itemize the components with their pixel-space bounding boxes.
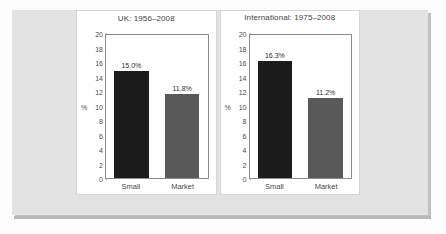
y-tick-label-4-uk: 4 — [99, 147, 103, 154]
panel-shadow — [14, 216, 431, 219]
y-tick-label-8-uk: 8 — [99, 118, 103, 125]
y-tick-label-20-international: 20 — [239, 31, 247, 38]
x-label-small-uk: Small — [113, 182, 148, 196]
y-tick-label-14-international: 14 — [239, 74, 247, 81]
x-label-market-uk: Market — [165, 182, 200, 196]
bar-small-international[interactable]: 16.3% — [258, 61, 293, 178]
charts-row: UK: 1956–2008 % 20181614121086420 15.0% — [76, 10, 360, 195]
y-tick-label-4-international: 4 — [243, 147, 247, 154]
bar-small-uk[interactable]: 15.0% — [114, 71, 149, 178]
y-tick-label-0-international: 0 — [243, 176, 247, 183]
bar-market-uk[interactable]: 11.8% — [165, 94, 200, 178]
y-tick-label-2-uk: 2 — [99, 161, 103, 168]
chart-card-international: International: 1975–2008 % 2018161412108… — [220, 10, 361, 195]
bar-slot-small-international: 16.3% — [258, 35, 293, 178]
plot-area-uk: 15.0% 11.8% — [105, 34, 209, 179]
y-tick-label-18-international: 18 — [239, 45, 247, 52]
y-tick-label-6-international: 6 — [243, 132, 247, 139]
bar-slot-small-uk: 15.0% — [114, 35, 149, 178]
y-tick-label-6-uk: 6 — [99, 132, 103, 139]
bar-value-label-small-uk: 15.0% — [121, 62, 141, 69]
y-tick-label-2-international: 2 — [243, 161, 247, 168]
chart-card-uk: UK: 1956–2008 % 20181614121086420 15.0% — [76, 10, 217, 195]
y-tick-label-8-international: 8 — [243, 118, 247, 125]
bars-uk: 15.0% 11.8% — [106, 35, 208, 178]
x-axis-labels-uk: Small Market — [105, 182, 209, 196]
y-tick-label-16-uk: 16 — [95, 60, 103, 67]
slide-canvas: UK: 1956–2008 % 20181614121086420 15.0% — [0, 0, 446, 234]
y-tick-label-0-uk: 0 — [99, 176, 103, 183]
bar-value-label-market-uk: 11.8% — [172, 85, 191, 92]
bar-slot-market-international: 11.2% — [308, 35, 343, 178]
bar-market-international[interactable]: 11.2% — [308, 98, 343, 178]
x-label-market-international: Market — [309, 182, 344, 196]
x-label-small-international: Small — [257, 182, 292, 196]
y-tick-label-12-uk: 12 — [95, 89, 103, 96]
y-tick-label-12-international: 12 — [239, 89, 247, 96]
y-axis-ticks-uk: 20181614121086420 — [83, 34, 103, 179]
y-tick-label-10-international: 10 — [239, 103, 247, 110]
plot-wrap-uk: % 20181614121086420 15.0% 11.8% — [77, 11, 216, 194]
y-axis-ticks-international: 20181614121086420 — [227, 34, 247, 179]
bar-slot-market-uk: 11.8% — [165, 35, 200, 178]
y-tick-label-20-uk: 20 — [95, 31, 103, 38]
y-tick-label-14-uk: 14 — [95, 74, 103, 81]
bar-value-label-market-international: 11.2% — [316, 89, 335, 96]
plot-area-international: 16.3% 11.2% — [249, 34, 353, 179]
x-axis-labels-international: Small Market — [249, 182, 353, 196]
y-tick-label-10-uk: 10 — [95, 103, 103, 110]
bar-value-label-small-international: 16.3% — [265, 52, 285, 59]
y-tick-label-16-international: 16 — [239, 60, 247, 67]
bars-international: 16.3% 11.2% — [250, 35, 352, 178]
plot-wrap-international: % 20181614121086420 16.3% 11.2% — [221, 11, 360, 194]
y-tick-label-18-uk: 18 — [95, 45, 103, 52]
